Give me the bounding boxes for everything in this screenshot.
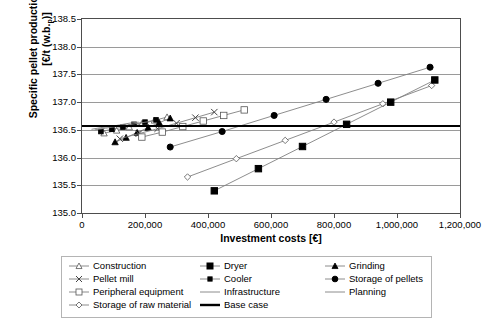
- legend-item-infrastructure[interactable]: Infrastructure: [199, 287, 280, 297]
- data-point: [219, 128, 225, 134]
- x-tick-label: 600,000: [254, 219, 288, 230]
- data-point: [139, 134, 145, 140]
- x-tick-label: 400,000: [191, 219, 225, 230]
- legend-marker-cross-icon: [68, 274, 90, 284]
- y-tick-label: 138.5: [32, 13, 76, 24]
- y-tick-label: 136.0: [32, 152, 76, 163]
- data-point: [432, 77, 438, 83]
- data-point: [388, 99, 394, 105]
- data-point: [255, 165, 261, 171]
- y-tick-label: 136.5: [32, 124, 76, 135]
- data-point: [233, 155, 239, 161]
- legend-marker-open-diamond-icon: [68, 300, 90, 310]
- y-tick-label: 135.5: [32, 179, 76, 190]
- data-point: [282, 137, 288, 143]
- legend-item-planning[interactable]: Planning: [324, 287, 386, 297]
- legend-label: Storage of pellets: [349, 274, 423, 284]
- legend-item-storage-of-raw-material[interactable]: Storage of raw material: [68, 300, 191, 310]
- data-point: [167, 144, 173, 150]
- y-tick-label: 135.0: [32, 207, 76, 218]
- legend-label: Cooler: [224, 274, 252, 284]
- data-point: [375, 80, 381, 86]
- data-point: [427, 64, 433, 70]
- legend-item-cooler[interactable]: Cooler: [199, 274, 252, 284]
- y-tick-label: 138.0: [32, 41, 76, 52]
- legend-item-pellet-mill[interactable]: Pellet mill: [68, 274, 134, 284]
- data-point: [331, 119, 337, 125]
- x-tick-mark: [334, 214, 335, 218]
- legend-item-dryer[interactable]: Dryer: [199, 261, 247, 271]
- series-dryer: [211, 77, 438, 194]
- x-tick-mark: [145, 214, 146, 218]
- legend-item-base-case[interactable]: Base case: [199, 300, 268, 310]
- x-tick-label: 800,000: [317, 219, 351, 230]
- legend-marker-thick-line-icon: [199, 300, 221, 310]
- data-point: [271, 112, 277, 118]
- x-tick-label: 200,000: [128, 219, 162, 230]
- x-tick-mark: [397, 214, 398, 218]
- data-point: [299, 143, 305, 149]
- legend-marker-line-icon: [199, 287, 221, 297]
- legend-marker-filled-square-icon: [199, 261, 221, 271]
- data-point: [241, 107, 247, 113]
- legend-label: Storage of raw material: [93, 300, 191, 310]
- data-point: [323, 96, 329, 102]
- data-point: [192, 114, 198, 120]
- y-tick-label: 137.5: [32, 68, 76, 79]
- x-tick-mark: [82, 214, 83, 218]
- x-tick-label: 0: [79, 219, 84, 230]
- legend-label: Base case: [224, 300, 268, 310]
- data-point: [221, 112, 227, 118]
- legend-marker-filled-circle-icon: [324, 274, 346, 284]
- legend-item-grinding[interactable]: Grinding: [324, 261, 385, 271]
- data-point: [211, 188, 217, 194]
- legend-marker-small-filled-square-icon: [199, 274, 221, 284]
- x-tick-label: 1,000,000: [376, 219, 418, 230]
- legend-label: Peripheral equipment: [93, 287, 183, 297]
- legend-item-construction[interactable]: Construction: [68, 261, 146, 271]
- data-point: [184, 174, 190, 180]
- plot-area: [81, 18, 461, 214]
- x-tick-label: 1,200,000: [439, 219, 481, 230]
- data-point: [159, 129, 165, 135]
- x-tick-mark: [460, 214, 461, 218]
- legend-marker-filled-triangle-icon: [324, 261, 346, 271]
- data-point: [200, 118, 206, 124]
- chart-root: Specific pellet production costs [€/t (w…: [0, 0, 498, 332]
- series-storage-of-pellets: [167, 64, 433, 150]
- legend-marker-open-square-icon: [68, 287, 90, 297]
- data-point: [211, 109, 217, 115]
- legend-item-peripheral-equipment[interactable]: Peripheral equipment: [68, 287, 183, 297]
- x-tick-mark: [208, 214, 209, 218]
- data-point: [117, 136, 123, 142]
- y-tick-label: 137.0: [32, 96, 76, 107]
- legend-label: Dryer: [224, 261, 247, 271]
- legend-label: Infrastructure: [224, 287, 280, 297]
- legend-label: Grinding: [349, 261, 385, 271]
- legend-marker-open-triangle-icon: [68, 261, 90, 271]
- legend-label: Pellet mill: [93, 274, 134, 284]
- data-series-layer: [82, 19, 460, 213]
- x-tick-mark: [271, 214, 272, 218]
- legend-marker-line-icon: [324, 287, 346, 297]
- legend-label: Planning: [349, 287, 386, 297]
- x-axis-title: Investment costs [€]: [81, 232, 461, 244]
- data-point: [154, 118, 158, 122]
- legend-label: Construction: [93, 261, 146, 271]
- data-point: [99, 129, 103, 133]
- legend: ConstructionDryerGrindingPellet millCool…: [61, 256, 432, 318]
- legend-item-storage-of-pellets[interactable]: Storage of pellets: [324, 274, 423, 284]
